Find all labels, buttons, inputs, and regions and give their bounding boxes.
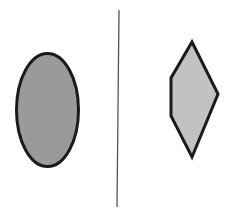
figure-canvas [0, 0, 235, 216]
ellipse-shape [17, 54, 79, 167]
shapes-figure-svg [0, 0, 235, 216]
